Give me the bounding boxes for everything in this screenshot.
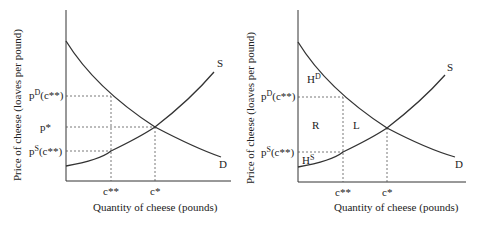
left-tick-cstarstar: c**	[103, 185, 119, 197]
right-tick-pS: pS(c**)	[261, 145, 294, 159]
left-supply-label: S	[217, 57, 223, 69]
right-panel: S D HD R L HS pD(c**) pS(c**) c** c* Qua…	[244, 10, 466, 214]
right-supply-label: S	[447, 61, 453, 73]
region-L: L	[353, 119, 360, 131]
right-tick-pD: pD(c**)	[261, 89, 296, 103]
region-HD: HD	[307, 72, 321, 85]
right-tick-cstarstar: c**	[335, 186, 351, 198]
right-supply-curve	[298, 75, 445, 167]
left-panel: S D pD(c**) p* pS(c**) c** c* Quantity o…	[11, 10, 231, 214]
left-x-axis-label: Quantity of cheese (pounds)	[93, 201, 218, 214]
left-supply-curve	[66, 72, 214, 166]
left-tick-pD: pD(c**)	[29, 88, 64, 102]
region-R: R	[312, 119, 320, 131]
right-y-axis-label: Price of cheese (loaves per pound)	[244, 32, 257, 184]
left-demand-curve	[66, 41, 221, 157]
left-tick-cstar: c*	[150, 185, 160, 197]
right-x-axis-label: Quantity of cheese (pounds)	[334, 201, 459, 214]
right-demand-label: D	[455, 158, 463, 170]
right-tick-cstar: c*	[382, 186, 392, 198]
left-tick-pS: pS(c**)	[29, 144, 62, 158]
diagram-canvas: S D pD(c**) p* pS(c**) c** c* Quantity o…	[0, 0, 477, 227]
left-y-axis-label: Price of cheese (loaves per pound)	[11, 29, 24, 181]
left-demand-label: D	[219, 158, 227, 170]
left-tick-pstar: p*	[40, 121, 51, 133]
right-demand-curve	[298, 42, 455, 157]
